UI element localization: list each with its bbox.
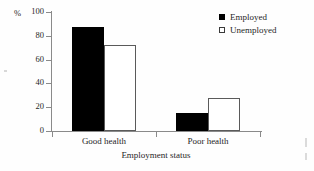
y-axis-tick [46,83,51,84]
y-axis-tick-label: 0 [0,126,44,135]
y-axis-tick-label: 20 [0,102,44,111]
x-axis-tick [260,132,261,137]
chart-legend: Employed Unemployed [219,11,277,37]
legend-item-unemployed: Unemployed [219,24,277,35]
bar-employed-poor-health [176,113,208,131]
scan-artifact [4,70,7,72]
scan-artifact [305,153,307,160]
filled-square-icon [219,14,225,20]
x-axis-tick [156,132,157,137]
y-axis-tick [46,131,51,132]
bar-employed-good-health [72,27,104,131]
legend-label-employed: Employed [230,12,267,22]
legend-item-employed: Employed [219,11,277,22]
x-axis-category-label: Poor health [158,136,258,146]
y-axis-tick [46,36,51,37]
scan-artifact [305,138,307,147]
x-axis-title: Employment status [52,150,260,160]
bar-unemployed-good-health [104,45,136,131]
y-axis-tick [46,60,51,61]
y-axis-tick-label: 80 [0,31,44,40]
bar-chart-figure: % 020406080100 Good healthPoor health Em… [0,0,314,171]
hollow-square-icon [219,27,225,33]
bar-unemployed-poor-health [208,98,240,131]
y-axis-tick [46,12,51,13]
y-axis-tick [46,107,51,108]
y-axis-tick-label: 60 [0,55,44,64]
y-axis-tick-label: 100 [0,7,44,16]
x-axis-category-label: Good health [54,136,154,146]
legend-label-unemployed: Unemployed [230,25,277,35]
x-axis-tick [52,132,53,137]
y-axis-tick-label: 40 [0,78,44,87]
